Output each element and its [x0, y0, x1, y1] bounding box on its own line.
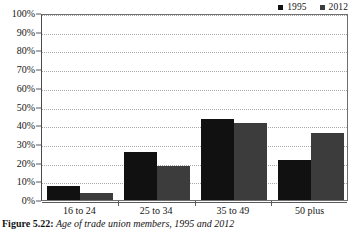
y-axis: 0%10%20%30%40%50%60%70%80%90%100% — [0, 14, 41, 201]
figure-caption: Figure 5.22: Age of trade union members,… — [2, 218, 352, 230]
bar-1995-35-to-49 — [201, 119, 234, 200]
x-axis-tick-label: 25 to 34 — [140, 205, 173, 216]
bar-2012-50-plus — [311, 133, 344, 200]
x-axis-tick-mark — [118, 201, 119, 206]
y-axis-tick-label: 60% — [17, 84, 35, 94]
y-axis-tick-label: 40% — [17, 121, 35, 131]
y-axis-tick-label: 100% — [12, 9, 35, 19]
bar-1995-25-to-34 — [124, 152, 157, 200]
y-axis-tick-label: 30% — [17, 140, 35, 150]
bar-group — [196, 15, 273, 200]
square-marker-icon — [278, 5, 283, 10]
bar-2012-16-to-24 — [80, 193, 113, 200]
x-axis-tick-label: 16 to 24 — [63, 205, 96, 216]
bar-2012-25-to-34 — [157, 166, 190, 200]
y-axis-tick-label: 70% — [17, 65, 35, 75]
bars-layer — [42, 15, 347, 200]
x-axis: 16 to 2425 to 3435 to 4950 plus — [41, 201, 348, 219]
figure-caption-text: Age of trade union members, 1995 and 201… — [56, 218, 234, 229]
y-axis-tick-label: 80% — [17, 46, 35, 56]
y-axis-tick-label: 50% — [17, 103, 35, 113]
figure-container: 19952012 0%10%20%30%40%50%60%70%80%90%10… — [0, 0, 352, 230]
x-axis-tick-mark — [271, 201, 272, 206]
y-axis-tick-label: 20% — [17, 159, 35, 169]
y-axis-tick-label: 0% — [22, 196, 35, 206]
legend-entry-1995: 1995 — [278, 3, 306, 13]
figure-number: Figure 5.22: — [2, 218, 53, 229]
bar-1995-50-plus — [278, 160, 311, 200]
bar-group — [42, 15, 119, 200]
bar-group — [272, 15, 349, 200]
legend-label: 1995 — [287, 3, 306, 13]
legend-label: 2012 — [329, 3, 348, 13]
x-axis-tick-label: 35 to 49 — [216, 205, 249, 216]
bar-1995-16-to-24 — [47, 186, 80, 200]
x-axis-tick-label: 50 plus — [295, 205, 324, 216]
bar-group — [119, 15, 196, 200]
bar-2012-35-to-49 — [234, 123, 267, 200]
square-marker-icon — [320, 5, 325, 10]
y-axis-tick-label: 10% — [17, 177, 35, 187]
plot-area — [41, 14, 348, 201]
legend-entry-2012: 2012 — [320, 3, 348, 13]
chart-legend: 19952012 — [278, 1, 348, 14]
x-axis-tick-mark — [195, 201, 196, 206]
y-axis-tick-label: 90% — [17, 28, 35, 38]
